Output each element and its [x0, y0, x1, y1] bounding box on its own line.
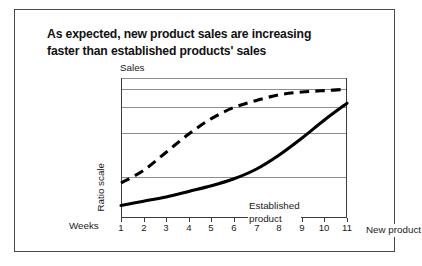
chart-title-line-2: faster than established products' sales: [47, 43, 377, 60]
x-tick-label-3: 3: [156, 222, 176, 233]
established-product-label-line-2: product: [249, 213, 300, 226]
x-tick-label-10: 10: [314, 222, 334, 233]
chart-title-line-1: As expected, new product sales are incre…: [47, 26, 377, 43]
new-product-label: New product: [365, 224, 422, 237]
y-axis-title: Sales: [120, 62, 145, 73]
established-product-label: Establishedproduct: [248, 200, 301, 225]
x-tick-label-1: 1: [111, 222, 131, 233]
established-product-label-line-1: Established: [249, 200, 300, 213]
x-tick-label-11: 11: [337, 222, 357, 233]
x-tick-label-2: 2: [134, 222, 154, 233]
x-tick-label-4: 4: [179, 222, 199, 233]
x-axis-title: Weeks: [69, 220, 99, 231]
x-tick-label-6: 6: [224, 222, 244, 233]
new-product-curve: [121, 103, 347, 205]
established-product-curve: [121, 89, 347, 183]
series-curves: [121, 78, 347, 218]
plot-area: 1234567891011 Establishedproduct New pro…: [121, 78, 347, 218]
y-axis-scale-label: Ratio scale: [95, 163, 106, 211]
x-tick-label-5: 5: [201, 222, 221, 233]
chart-title: As expected, new product sales are incre…: [47, 26, 377, 59]
